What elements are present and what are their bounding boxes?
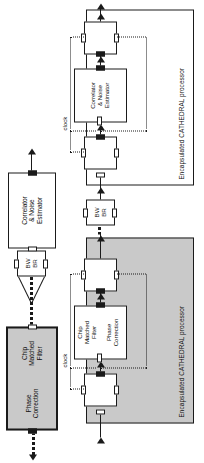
upper-clock-drop-right [70, 273, 84, 274]
block-chip-matched-filter-phase-correction: Phase Correction Chip Matched Filter [6, 326, 58, 430]
lower-input-arrow-icon [97, 187, 105, 193]
port-cmf-input [28, 428, 37, 433]
lower-reg-right-top-port [81, 33, 86, 42]
upper-boundary-port-in [96, 409, 105, 414]
input-arrow-icon [29, 454, 37, 460]
title-encapsulated-cathedral-upper: Encapsulated CATHEDRAL processor [178, 305, 185, 417]
lower-core-port-left [97, 116, 102, 125]
output-line-reference [31, 152, 32, 170]
upper-register-right [84, 258, 117, 291]
upper-reg-left-out-port [96, 371, 105, 376]
upper-register-left [84, 373, 117, 406]
upper-clock-bus-right [70, 274, 71, 368]
port-bwbr-bottom [43, 259, 48, 268]
upper-input-arrow-icon [97, 437, 105, 443]
lower-output-arrow-icon-inner [97, 13, 105, 19]
upper-clock-bus-top [70, 367, 71, 389]
output-arrow-icon [28, 148, 36, 154]
tap-line-upper [31, 276, 45, 303]
upper-clock-drop-left [70, 388, 84, 389]
lower-clock-drop-bottom-right [117, 36, 146, 37]
upper-clock-label: clock [62, 353, 68, 367]
lower-register-right [84, 21, 117, 54]
title-encapsulated-cathedral-lower: Encapsulated CATHEDRAL processor [178, 67, 185, 179]
lower-label-correlator-noise-estimator: Correlator & Noise Estimator [90, 82, 111, 109]
lower-reg-right-in-port [96, 51, 105, 56]
figure-canvas: Phase Correction Chip Matched Filter BW … [0, 0, 204, 463]
label-bw-br: BW BR [25, 258, 39, 268]
lower-bwbr-top-port [83, 208, 88, 217]
block-bw-br: BW BR [17, 250, 46, 276]
upper-reg-right-in-port [96, 288, 105, 293]
upper-reg-left-bottom-port [114, 385, 119, 394]
lower-reg-left-top-port [81, 148, 86, 157]
upper-core-port-left [97, 353, 102, 362]
lower-clock-drop-left [70, 151, 84, 152]
lower-label-bw-br: BW BR [94, 207, 108, 217]
lower-output-arrow-icon [97, 3, 105, 9]
input-signal-bus [32, 433, 35, 455]
lower-register-left [84, 136, 117, 169]
label-chip-matched-filter: Chip Matched Filter [21, 341, 43, 366]
upper-label-chip-matched-filter: Chip Matched Filter [77, 320, 98, 343]
upper-input-line [100, 413, 101, 437]
lower-block-bw-br: BW BR [86, 199, 115, 225]
lower-clock-bus-right [70, 37, 71, 131]
upper-core-port-right [96, 302, 105, 307]
label-phase-correction: Phase Correction [25, 388, 40, 417]
upper-reg-right-bottom-port [114, 270, 119, 279]
upper-reg-right-in-arrow-icon [97, 293, 105, 299]
upper-reg-right-top-port [81, 270, 86, 279]
upper-clock-stem [70, 367, 96, 368]
lower-clock-stem [70, 130, 96, 131]
port-correlator-input [28, 246, 37, 251]
upper-reg-left-top-port [81, 385, 86, 394]
lower-clock-drop-right [70, 36, 84, 37]
upper-label-phase-correction: Phase Correction [106, 318, 120, 346]
lower-reg-left-out-port [96, 134, 105, 139]
port-correlator-output [28, 170, 37, 175]
lower-boundary-port-in [96, 172, 105, 177]
lower-reg-left-bottom-port [114, 148, 119, 157]
lower-clock-bus-bottom [146, 37, 147, 131]
lower-core-port-right [96, 65, 105, 70]
upper-output-arrow-icon [97, 235, 105, 241]
upper-clock-bus-bottom [146, 274, 147, 368]
lower-clock-drop-down [100, 130, 146, 131]
upper-clock-drop-down [100, 367, 146, 368]
lower-clock-bus-top [70, 130, 71, 152]
upper-block-chip-matched-filter-phase-correction: Chip Matched Filter Phase Correction [74, 305, 127, 359]
block-correlator-noise-estimator: Correlator & Noise Estimator [8, 172, 56, 248]
lower-reg-right-bottom-port [114, 33, 119, 42]
lower-clock-label: clock [62, 116, 68, 130]
port-cmf-output [28, 324, 37, 329]
lower-reg-right-in-arrow-icon [97, 56, 105, 62]
upper-clock-drop-bottom-right [117, 273, 146, 274]
lower-block-correlator-noise-estimator: Correlator & Noise Estimator [74, 68, 127, 122]
lower-bwbr-bottom-port [112, 208, 117, 217]
port-bwbr-top [14, 259, 19, 268]
label-correlator-noise-estimator: Correlator & Noise Estimator [21, 196, 43, 224]
